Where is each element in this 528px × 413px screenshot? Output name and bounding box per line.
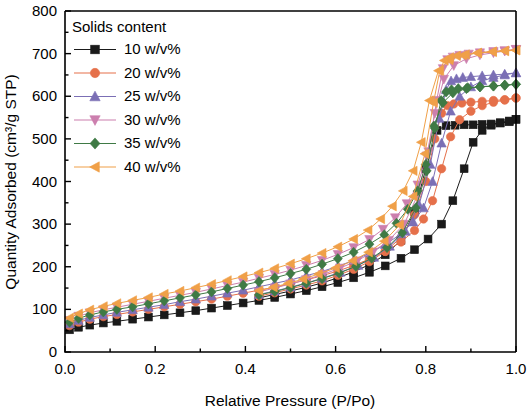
data-marker <box>460 165 468 173</box>
marker-square <box>438 220 446 228</box>
x-tick-label: 0.8 <box>415 360 436 377</box>
legend-label: 35 w/v% <box>124 134 181 151</box>
data-marker <box>302 264 311 274</box>
marker-diamond <box>489 81 498 91</box>
isotherm-plot: 01002003004005006007008000.00.20.40.60.8… <box>0 0 528 413</box>
data-marker <box>90 162 100 172</box>
marker-circle <box>428 196 436 204</box>
y-tick-label: 500 <box>32 130 57 147</box>
data-marker <box>239 299 247 307</box>
data-marker <box>381 262 389 270</box>
legend-item-30-w-v-[interactable]: 30 w/v% <box>74 111 181 128</box>
chart-figure: 01002003004005006007008000.00.20.40.60.8… <box>0 0 528 413</box>
data-marker <box>478 97 486 105</box>
data-marker <box>437 165 445 173</box>
data-marker <box>366 268 374 276</box>
marker-square <box>160 311 168 319</box>
data-marker <box>478 120 486 128</box>
marker-square <box>192 307 200 315</box>
data-marker <box>270 273 279 283</box>
marker-circle <box>467 98 475 106</box>
legend-layer: Solids content10 w/v%20 w/v%25 w/v%30 w/… <box>72 18 181 175</box>
y-tick-label: 200 <box>32 258 57 275</box>
marker-circle <box>455 115 463 123</box>
legend-label: 25 w/v% <box>124 87 181 104</box>
marker-square <box>129 315 137 323</box>
marker-square <box>176 309 184 317</box>
y-tick-label: 0 <box>49 343 57 360</box>
marker-triangle-left <box>408 166 417 175</box>
marker-square <box>145 313 153 321</box>
marker-square <box>366 268 374 276</box>
legend-label: 40 w/v% <box>124 158 181 175</box>
data-marker <box>467 107 475 115</box>
data-marker <box>449 197 457 205</box>
marker-diamond <box>254 277 263 287</box>
data-marker <box>500 80 509 90</box>
marker-triangle-left <box>398 186 407 195</box>
data-marker <box>496 119 504 127</box>
data-marker <box>408 166 417 175</box>
marker-diamond <box>318 259 327 269</box>
marker-square <box>397 254 405 262</box>
marker-diamond <box>302 264 311 274</box>
data-marker <box>469 138 477 146</box>
marker-circle <box>446 133 454 141</box>
marker-circle <box>478 97 486 105</box>
marker-square <box>496 119 504 127</box>
marker-circle <box>501 95 509 103</box>
marker-circle <box>90 68 99 77</box>
marker-square <box>239 299 247 307</box>
marker-diamond <box>270 273 279 283</box>
marker-triangle-left <box>349 234 358 243</box>
y-tick-label: 700 <box>32 45 57 62</box>
data-marker <box>90 138 100 149</box>
y-tick-label: 800 <box>32 2 57 19</box>
marker-diamond <box>286 269 295 279</box>
legend-label: 30 w/v% <box>124 111 181 128</box>
marker-circle <box>437 165 445 173</box>
x-tick-label: 0.2 <box>145 360 166 377</box>
x-tick-label: 0.4 <box>235 360 256 377</box>
marker-diamond <box>90 138 100 149</box>
data-marker <box>90 68 99 77</box>
data-marker <box>363 225 372 234</box>
x-tick-label: 0.6 <box>325 360 346 377</box>
data-marker <box>223 302 231 310</box>
data-marker <box>91 45 100 54</box>
y-tick-label: 100 <box>32 300 57 317</box>
marker-circle <box>467 107 475 115</box>
marker-square <box>411 246 419 254</box>
legend-item-20-w-v-[interactable]: 20 w/v% <box>74 64 181 81</box>
data-marker <box>254 277 263 287</box>
legend-item-40-w-v-[interactable]: 40 w/v% <box>74 158 181 175</box>
legend-item-35-w-v-[interactable]: 35 w/v% <box>74 134 181 151</box>
data-marker <box>505 118 513 126</box>
marker-circle <box>489 96 497 104</box>
marker-triangle-left <box>333 242 342 251</box>
legend-item-25-w-v-[interactable]: 25 w/v% <box>74 87 181 104</box>
legend-title: Solids content <box>72 18 167 35</box>
marker-circle <box>419 215 427 223</box>
data-marker <box>318 259 327 269</box>
marker-square <box>223 302 231 310</box>
y-tick-label: 400 <box>32 173 57 190</box>
data-marker <box>349 234 358 243</box>
data-marker <box>208 304 216 312</box>
marker-square <box>208 304 216 312</box>
data-marker <box>424 235 432 243</box>
data-marker <box>410 226 418 234</box>
data-marker <box>501 95 509 103</box>
data-marker <box>397 254 405 262</box>
marker-square <box>460 165 468 173</box>
data-marker <box>145 313 153 321</box>
data-marker <box>333 242 342 251</box>
marker-square <box>91 45 100 54</box>
legend-item-10-w-v-[interactable]: 10 w/v% <box>74 40 181 57</box>
data-marker <box>398 186 407 195</box>
x-axis-title: Relative Pressure (P/Po) <box>205 392 376 409</box>
marker-square <box>487 120 495 128</box>
curve-path <box>259 119 516 298</box>
marker-circle <box>410 226 418 234</box>
data-marker <box>469 121 477 129</box>
